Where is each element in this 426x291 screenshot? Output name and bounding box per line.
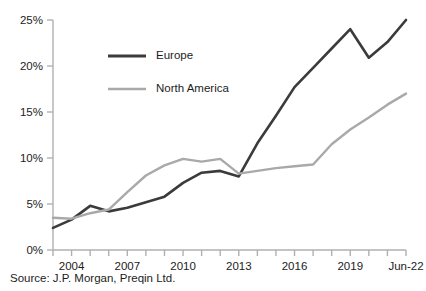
y-axis-tick-label: 0% [26, 244, 43, 256]
line-chart: 0%5%10%15%20%25% 20042007201020132016201… [0, 0, 426, 291]
series-line-north-america [53, 94, 406, 219]
x-axis-ticks [53, 250, 406, 256]
y-axis-tick-label: 15% [20, 106, 43, 118]
chart-container: 0%5%10%15%20%25% 20042007201020132016201… [0, 0, 426, 291]
y-axis-tick-label: 10% [20, 152, 43, 164]
x-axis-tick-label: 2013 [226, 260, 252, 272]
y-axis-tick-label: 20% [20, 60, 43, 72]
x-axis-tick-label: 2004 [59, 260, 85, 272]
y-axis-tick-labels: 0%5%10%15%20%25% [20, 14, 43, 256]
x-axis-tick-labels: 200420072010201320162019Jun-22 [59, 260, 424, 272]
x-axis-tick-label: 2007 [115, 260, 141, 272]
y-axis-tick-label: 25% [20, 14, 43, 26]
series-lines [53, 20, 406, 228]
source-note: Source: J.P. Morgan, Preqin Ltd. [10, 272, 175, 284]
x-axis-tick-label: 2019 [337, 260, 363, 272]
x-axis-tick-label: Jun-22 [388, 260, 423, 272]
legend-label-north-america: North America [156, 82, 229, 94]
legend-label-europe: Europe [156, 49, 193, 61]
y-axis-tick-label: 5% [26, 198, 43, 210]
x-axis-tick-label: 2016 [282, 260, 308, 272]
axis-group [53, 20, 406, 250]
x-axis-tick-label: 2010 [170, 260, 196, 272]
series-line-europe [53, 20, 406, 228]
chart-legend: EuropeNorth America [108, 49, 229, 94]
y-axis-ticks [47, 20, 53, 250]
